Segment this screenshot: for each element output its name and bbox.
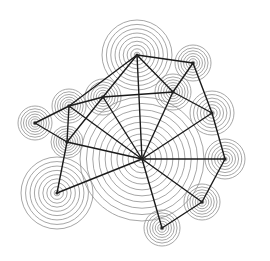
node-r — [210, 111, 213, 114]
edge-r-rl — [212, 113, 225, 159]
edge-t-c — [137, 55, 142, 159]
edge-lu-mr — [103, 92, 173, 97]
node-b — [160, 226, 163, 229]
node-lm — [67, 104, 70, 107]
node-tr — [191, 61, 194, 64]
node-t — [135, 53, 138, 56]
node-lu — [101, 95, 104, 98]
node-mr — [171, 90, 174, 93]
node-rl — [223, 157, 226, 160]
node-ll — [65, 140, 68, 143]
edge-lu-c — [103, 97, 142, 159]
node-fl — [33, 121, 36, 124]
node-br — [200, 200, 203, 203]
network-diagram — [0, 0, 270, 261]
edge-t-mr — [137, 55, 173, 92]
node-c — [140, 157, 143, 160]
node-bl — [55, 191, 58, 194]
edge-c-b — [142, 159, 162, 228]
